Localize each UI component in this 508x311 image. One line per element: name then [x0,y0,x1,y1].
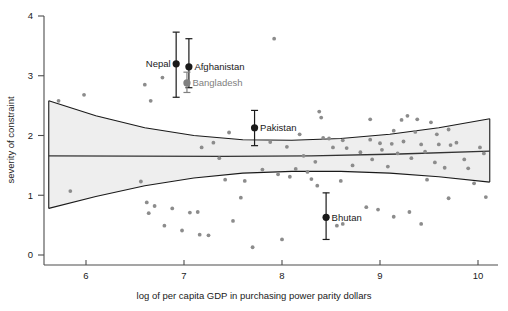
data-point [272,37,276,41]
data-point [302,154,306,158]
data-point [180,229,184,233]
data-point [359,150,363,154]
data-point [276,172,280,176]
data-point [419,143,423,147]
data-point [170,206,174,210]
data-point [243,179,247,183]
data-point [433,160,437,164]
data-point [392,215,396,219]
data-point [482,152,486,156]
data-point [200,146,204,150]
data-point [149,99,153,103]
highlight-dot-bhutan [323,214,330,221]
highlight-dot-bangladesh [183,79,190,86]
data-point [392,129,396,133]
data-point [443,166,447,170]
data-point [386,165,390,169]
data-point [409,156,413,160]
data-point [207,233,211,237]
data-point [82,93,86,97]
y-tick-label: 4 [28,10,33,21]
data-point [227,131,231,135]
data-point [217,156,221,160]
y-axis-title: severity of constraint [5,96,16,183]
data-point [285,145,289,149]
data-point [380,148,384,152]
data-point [251,245,255,249]
data-point [147,211,151,215]
highlight-label-bhutan: Bhutan [332,212,362,223]
data-point [268,140,272,144]
data-point [153,204,157,208]
highlight-dot-afghanistan [185,63,192,70]
data-point [437,143,441,147]
data-point [231,219,235,223]
scatter-plot: NepalAfghanistanBangladeshPakistanBhutan… [0,0,508,311]
data-point [429,120,433,124]
highlight-label-pakistan: Pakistan [260,122,296,133]
highlight-label-bangladesh: Bangladesh [192,77,242,88]
data-point [319,116,323,120]
data-point [339,179,343,183]
data-point [212,141,216,145]
data-point [280,238,284,242]
data-point [462,158,466,162]
data-point [484,195,488,199]
data-point [223,178,227,182]
data-point [472,181,476,185]
data-point [396,152,400,156]
data-point [435,132,439,136]
data-point [239,196,243,200]
y-tick-label: 1 [28,190,33,201]
data-point [376,208,380,212]
data-point [341,138,345,142]
data-point [163,224,167,228]
y-tick-label: 2 [28,130,33,141]
x-tick-label: 9 [377,270,382,281]
data-point [145,201,149,205]
data-point [449,143,453,147]
data-point [447,128,451,132]
highlight-dot-pakistan [251,124,258,131]
highlight-dot-nepal [173,60,180,67]
data-point [317,110,321,114]
x-axis-title: log of per capita GDP in purchasing powe… [137,290,372,301]
data-point [408,210,412,214]
data-point [390,142,394,146]
data-point [400,118,404,122]
data-point [447,196,451,200]
data-point [423,150,427,154]
data-point [368,138,372,142]
data-point [478,146,482,150]
data-point [310,177,314,181]
data-point [419,222,423,226]
data-point [161,76,165,80]
y-tick-label: 3 [28,70,33,81]
data-point [466,166,470,170]
highlight-label-nepal: Nepal [146,58,171,69]
data-point [68,189,72,193]
data-point [345,146,349,150]
data-point [368,117,372,121]
data-point [335,224,339,228]
x-tick-label: 8 [279,270,284,281]
data-point [321,136,325,140]
data-point [406,114,410,118]
data-point [298,132,302,136]
confidence-band [49,101,490,209]
data-point [425,178,429,182]
data-point [261,168,265,172]
x-tick-label: 7 [181,270,186,281]
data-point [196,210,200,214]
data-point [327,137,331,141]
data-point [351,163,355,167]
x-tick-label: 10 [473,270,484,281]
data-point [139,180,143,184]
data-point [57,99,61,103]
data-point [188,211,192,215]
data-point [341,222,345,226]
data-point [288,175,292,179]
data-point [294,167,298,171]
data-point [378,141,382,145]
data-point [306,170,310,174]
